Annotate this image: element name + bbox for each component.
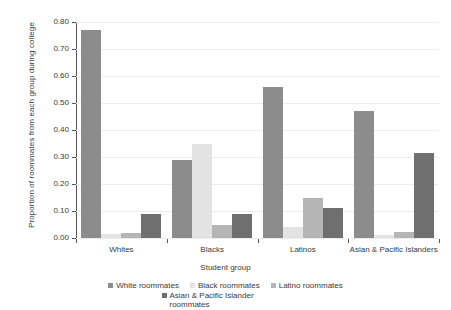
y-tick-label: 0.40 — [53, 125, 69, 134]
x-tick-mark — [348, 239, 349, 243]
plot-area — [76, 22, 439, 238]
y-tick-mark — [72, 211, 76, 212]
legend-item: Latino roommates — [271, 281, 343, 291]
x-tick-mark — [258, 239, 259, 243]
y-tick-mark — [72, 184, 76, 185]
bar — [263, 87, 283, 238]
y-tick-label: 0.00 — [53, 233, 69, 242]
bar — [323, 208, 343, 238]
y-tick-label: 0.60 — [53, 71, 69, 80]
y-tick-label: 0.80 — [53, 17, 69, 26]
legend-label: Asian & Pacific Islander roommates — [170, 291, 290, 310]
x-tick-label: Whites — [71, 245, 171, 255]
x-tick-mark — [439, 239, 440, 243]
gridline — [76, 157, 439, 158]
gridline — [76, 22, 439, 23]
bar — [394, 232, 414, 238]
y-tick: 0.10 — [0, 211, 76, 212]
bar — [374, 235, 394, 238]
bar — [232, 214, 252, 238]
gridline — [76, 49, 439, 50]
gridline — [76, 130, 439, 131]
bar — [212, 225, 232, 239]
x-tick-label: Asian & Pacific Islanders — [344, 245, 444, 255]
x-tick-mark — [167, 239, 168, 243]
y-tick-mark — [72, 22, 76, 23]
gridline — [76, 211, 439, 212]
legend-label: Black roommates — [198, 281, 260, 291]
x-tick-label: Latinos — [253, 245, 353, 255]
y-tick-mark — [72, 103, 76, 104]
legend-swatch-icon — [190, 283, 195, 288]
bar — [81, 30, 101, 238]
gridline — [76, 103, 439, 104]
bar — [121, 233, 141, 238]
bar — [303, 198, 323, 239]
y-tick-mark — [72, 157, 76, 158]
y-tick-mark — [72, 76, 76, 77]
bar — [101, 234, 121, 238]
y-tick: 0.70 — [0, 49, 76, 50]
legend-swatch-icon — [108, 283, 113, 288]
x-tick-label: Blacks — [162, 245, 262, 255]
x-axis-title: Student group — [0, 263, 451, 272]
y-tick-label: 0.20 — [53, 179, 69, 188]
bar — [354, 111, 374, 238]
chart-legend: White roommatesBlack roommatesLatino roo… — [0, 281, 451, 310]
y-tick: 0.80 — [0, 22, 76, 23]
y-tick: 0.20 — [0, 184, 76, 185]
y-axis-title: Proportion of roommates from each group … — [27, 20, 37, 230]
y-tick-mark — [72, 130, 76, 131]
bar — [283, 227, 303, 238]
y-tick-label: 0.30 — [53, 152, 69, 161]
legend-swatch-icon — [162, 293, 167, 298]
y-tick: 0.00 — [0, 238, 76, 239]
y-tick-label: 0.50 — [53, 98, 69, 107]
legend-item: Asian & Pacific Islander roommates — [162, 291, 290, 310]
y-tick: 0.30 — [0, 157, 76, 158]
x-tick-mark — [76, 239, 77, 243]
y-tick-label: 0.70 — [53, 44, 69, 53]
legend-item: White roommates — [108, 281, 179, 291]
legend-label: Latino roommates — [279, 281, 343, 291]
y-tick-mark — [72, 49, 76, 50]
y-tick: 0.50 — [0, 103, 76, 104]
gridline — [76, 76, 439, 77]
gridline — [76, 184, 439, 185]
legend-label: White roommates — [116, 281, 179, 291]
legend-item: Black roommates — [190, 281, 260, 291]
bar — [172, 160, 192, 238]
y-tick-label: 0.10 — [53, 206, 69, 215]
y-tick: 0.60 — [0, 76, 76, 77]
y-tick: 0.40 — [0, 130, 76, 131]
bar — [414, 153, 434, 238]
bar — [192, 144, 212, 239]
bar — [141, 214, 161, 238]
legend-swatch-icon — [271, 283, 276, 288]
